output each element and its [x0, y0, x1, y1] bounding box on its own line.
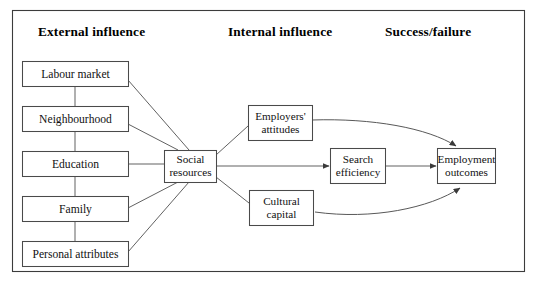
node-label-employers-attitudes-line2: attitudes	[262, 123, 300, 135]
node-employment-outcomes[interactable]: Employment outcomes	[438, 149, 497, 184]
node-employers-attitudes[interactable]: Employers' attitudes	[249, 106, 313, 141]
node-label-labour-market: Labour market	[41, 68, 110, 81]
node-label-neighbourhood: Neighbourhood	[39, 113, 112, 126]
node-label-employment-outcomes-line2: outcomes	[445, 166, 488, 178]
column-header-external: External influence	[38, 24, 145, 39]
node-labour-market[interactable]: Labour market	[23, 62, 129, 87]
node-label-employers-attitudes-line1: Employers'	[255, 110, 306, 122]
node-label-social-resources-line2: resources	[169, 166, 211, 178]
node-neighbourhood[interactable]: Neighbourhood	[23, 107, 129, 132]
node-label-search-efficiency-line2: efficiency	[336, 166, 381, 178]
column-header-internal: Internal influence	[228, 24, 332, 39]
diagram-canvas: External influence Internal influence Su…	[0, 0, 537, 283]
node-personal-attributes[interactable]: Personal attributes	[23, 242, 129, 267]
column-header-outcome: Success/failure	[385, 24, 471, 39]
conceptual-flow-diagram: External influence Internal influence Su…	[0, 0, 537, 283]
node-education[interactable]: Education	[23, 152, 129, 177]
node-family[interactable]: Family	[23, 197, 129, 222]
node-social-resources[interactable]: Social resources	[165, 151, 217, 183]
node-cultural-capital[interactable]: Cultural capital	[250, 191, 314, 226]
node-label-search-efficiency-line1: Search	[343, 153, 374, 165]
node-search-efficiency[interactable]: Search efficiency	[331, 149, 386, 184]
node-label-cultural-capital-line1: Cultural	[263, 195, 300, 207]
node-label-family: Family	[59, 203, 92, 216]
node-label-education: Education	[52, 158, 99, 171]
node-label-cultural-capital-line2: capital	[267, 208, 297, 220]
node-label-social-resources-line1: Social	[177, 153, 205, 165]
node-label-employment-outcomes-line1: Employment	[438, 153, 497, 165]
node-label-personal-attributes: Personal attributes	[33, 248, 119, 261]
